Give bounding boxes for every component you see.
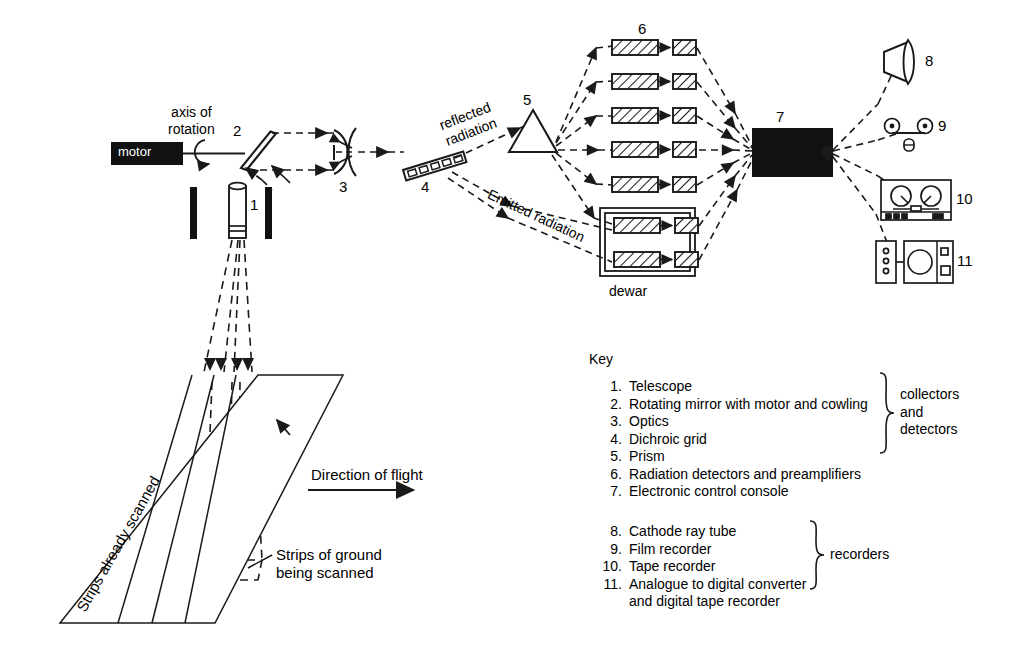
key-item-index: 2. [598, 396, 629, 414]
key-list: 1. Telescope 2. Rotating mirror with mot… [598, 378, 898, 501]
cowling-bar-left [190, 187, 197, 239]
key-item-index: 7. [598, 483, 629, 501]
strips-being-scanned-label: Strips of ground being scanned [276, 546, 382, 581]
callout-1: 1 [250, 196, 258, 214]
key-item-label: Analogue to digital converter and digita… [629, 576, 806, 611]
prism [509, 110, 557, 152]
callout-6: 6 [638, 20, 646, 38]
telescope-body [229, 183, 246, 238]
callout-11: 11 [957, 252, 973, 270]
prism-dispersion-fan [552, 46, 613, 224]
key-item-index: 1. [598, 378, 629, 396]
axis-of-rotation-label: axis of rotation [168, 104, 215, 137]
dichroic-grid [403, 152, 466, 181]
key-item-index: 8. [598, 523, 629, 541]
key-item-index: 9. [598, 541, 629, 559]
key-item-label: Cathode ray tube [629, 523, 736, 541]
callout-4: 4 [421, 178, 429, 196]
key-item-label: Rotating mirror with motor and cowling [629, 396, 868, 414]
callout-10: 10 [956, 190, 973, 208]
callout-9: 9 [938, 117, 946, 135]
key-item-index: 5. [598, 448, 629, 466]
optics-lens [334, 128, 356, 176]
cathode-ray-tube [884, 40, 914, 84]
detectors-to-console-fan [697, 48, 753, 260]
key-item-label: Prism [629, 448, 665, 466]
rotation-arrow-icon [195, 140, 209, 164]
callout-3: 3 [339, 178, 347, 196]
motor-label: motor [118, 144, 151, 159]
key-item-5: 5. Prism [598, 448, 898, 466]
key-item-index: 3. [598, 413, 629, 431]
dewar-label: dewar [609, 283, 647, 300]
key-item-6: 6. Radiation detectors and preamplifiers [598, 466, 898, 484]
key-item-index: 10. [598, 558, 629, 576]
key-item-2: 2. Rotating mirror with motor and cowlin… [598, 396, 898, 414]
key-item-1: 1. Telescope [598, 378, 898, 396]
diagram-canvas: motor axis of rotation 2 1 3 4 5 6 7 8 9… [0, 0, 1018, 663]
key-item-label: Tape recorder [629, 558, 715, 576]
detector-row-7-dewar [614, 252, 698, 267]
callout-8: 8 [925, 52, 933, 70]
scan-beam-arrowheads [204, 358, 254, 371]
key-item-7: 7. Electronic control console [598, 483, 898, 501]
detector-row-4 [612, 142, 696, 157]
detector-row-5 [612, 177, 696, 192]
key-item-label: Film recorder [629, 541, 711, 559]
key-item-label: Optics [629, 413, 669, 431]
key-item-8: 8. Cathode ray tube [598, 523, 898, 541]
callout-7: 7 [776, 108, 784, 126]
callout-2: 2 [233, 122, 241, 140]
detector-row-3 [612, 108, 696, 123]
mirror-to-optics-rays [246, 133, 341, 190]
rotating-mirror [241, 132, 276, 171]
adc-unit [876, 241, 953, 283]
key-item-label: Radiation detectors and preamplifiers [629, 466, 861, 484]
key-item-index: 4. [598, 431, 629, 449]
key-item-4: 4. Dichroic grid [598, 431, 898, 449]
tape-recorder [881, 180, 951, 220]
key-item-index: 11. [598, 576, 629, 611]
key-item-index: 6. [598, 466, 629, 484]
detector-row-6-dewar [614, 218, 698, 233]
callout-5: 5 [523, 91, 531, 109]
key-list-recorders: 8. Cathode ray tube 9. Film recorder 10.… [598, 523, 898, 611]
cowling-bar-right [265, 187, 272, 239]
key-item-label: Electronic control console [629, 483, 789, 501]
detector-row-1 [612, 40, 696, 55]
key-group-collectors: collectors and detectors [900, 386, 959, 439]
detector-row-2 [612, 74, 696, 89]
key-title: Key [589, 351, 613, 368]
key-item-label: Telescope [629, 378, 692, 396]
key-group-recorders: recorders [830, 546, 889, 564]
key-item-3: 3. Optics [598, 413, 898, 431]
direction-of-flight-label: Direction of flight [311, 466, 423, 484]
key-item-label: Dichroic grid [629, 431, 707, 449]
key-item-11: 11. Analogue to digital converter and di… [598, 576, 898, 611]
console-box [752, 128, 833, 177]
